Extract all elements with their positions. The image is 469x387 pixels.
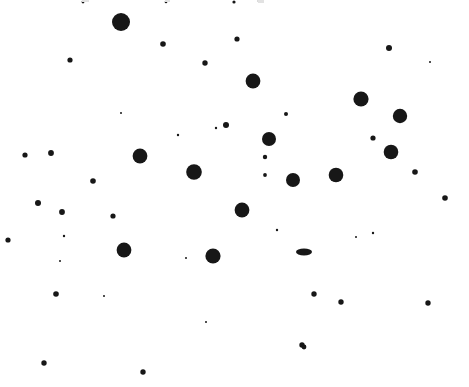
scatter-dot: [372, 232, 374, 234]
scatter-dot: [311, 291, 316, 296]
scatter-dot: [63, 235, 65, 237]
scatter-dot: [202, 60, 207, 65]
scatter-dot: [67, 57, 72, 62]
scatter-dot: [276, 229, 278, 231]
scatter-dot: [5, 237, 10, 242]
scatter-dot: [186, 164, 202, 180]
scatter-dot: [338, 299, 343, 304]
scatter-dot: [48, 150, 54, 156]
scatter-dot: [393, 109, 407, 123]
scatter-dot: [263, 173, 267, 177]
scatter-dot: [355, 236, 357, 238]
scatter-dot: [120, 112, 122, 114]
top-edge-artifact: [82, 0, 89, 2]
scatter-dot: [296, 249, 312, 256]
scatter-dot: [110, 213, 115, 218]
scatter-dot: [223, 122, 229, 128]
scatter-dot: [235, 203, 250, 218]
scatter-dot: [117, 243, 132, 258]
scatter-dot: [90, 178, 96, 184]
scatter-dot: [263, 155, 267, 159]
scatter-dot: [262, 132, 276, 146]
dot-pattern-figure: [0, 0, 469, 387]
scatter-dot: [205, 321, 207, 323]
scatter-dot: [304, 252, 306, 254]
scatter-dot: [177, 134, 179, 136]
scatter-dot: [103, 295, 105, 297]
scatter-dot: [205, 248, 220, 263]
scatter-dot: [22, 152, 27, 157]
scatter-dot: [232, 0, 235, 3]
scatter-dot: [442, 195, 448, 201]
scatter-dot: [286, 173, 300, 187]
scatter-dot: [425, 300, 430, 305]
scatter-dot: [412, 169, 418, 175]
scatter-dot: [185, 257, 187, 259]
scatter-dot: [59, 209, 65, 215]
scatter-dot: [284, 112, 288, 116]
scatter-dot: [246, 74, 261, 89]
scatter-dot: [302, 345, 307, 350]
scatter-dot: [384, 145, 399, 160]
scatter-dot: [41, 360, 46, 365]
scatter-dot: [133, 149, 148, 164]
scatter-dot: [35, 200, 41, 206]
scatter-dot: [53, 291, 59, 297]
scatter-dot: [429, 61, 431, 63]
scatter-dot: [215, 127, 217, 129]
top-edge-artifact: [165, 0, 170, 2]
scatter-dot: [140, 369, 145, 374]
scatter-dot: [329, 168, 344, 183]
scatter-plot-canvas: [0, 0, 469, 387]
scatter-dot: [112, 13, 130, 31]
scatter-dot: [59, 260, 61, 262]
top-edge-artifact: [258, 0, 264, 3]
scatter-dot: [160, 41, 166, 47]
scatter-dot: [353, 91, 368, 106]
scatter-dot: [234, 36, 239, 41]
scatter-dot: [386, 45, 392, 51]
scatter-dot: [370, 135, 375, 140]
